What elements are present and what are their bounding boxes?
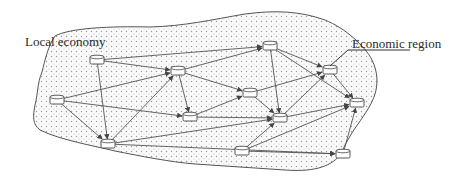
node-n4-icon	[101, 139, 115, 148]
node-n10-icon	[350, 98, 364, 107]
node-n8-icon	[273, 113, 287, 122]
node-n1-icon	[90, 55, 104, 64]
node-n7-icon	[183, 112, 197, 121]
local-economy-label: Local economy	[25, 34, 106, 50]
node-n2-icon	[171, 66, 185, 75]
node-n6-icon	[243, 88, 257, 97]
node-n3-icon	[50, 95, 64, 104]
economic-network-diagram	[0, 0, 451, 190]
node-n9-icon	[323, 65, 337, 74]
node-n11-icon	[235, 146, 249, 155]
node-n12-icon	[336, 149, 350, 158]
node-n5-icon	[263, 41, 277, 50]
economic-region-label: Economic region	[352, 36, 441, 52]
